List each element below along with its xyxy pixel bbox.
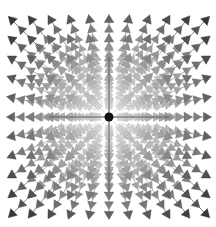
vector-cone-icon (104, 14, 113, 30)
center-point (105, 113, 114, 122)
vector-field-plot (0, 0, 216, 227)
vector-cone-icon (195, 112, 211, 121)
vector-cone-icon (6, 112, 22, 121)
vector-field-canvas (0, 0, 216, 227)
vector-cone-icon (104, 203, 113, 219)
